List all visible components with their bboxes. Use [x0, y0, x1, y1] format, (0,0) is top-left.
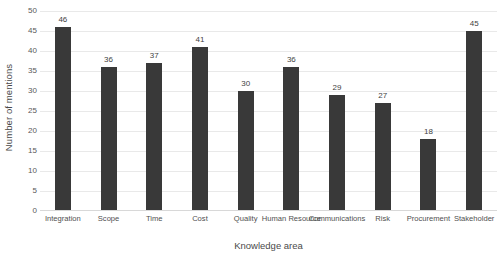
y-axis-tick-labels: 05101520253035404550: [18, 0, 37, 215]
bar-chart: Number of mentions 05101520253035404550 …: [0, 0, 499, 260]
y-axis-tick-label: 45: [18, 27, 37, 35]
bar[interactable]: [101, 67, 117, 211]
bar-slot: 41: [178, 11, 221, 211]
x-axis-line: [40, 210, 497, 211]
y-axis-tick-label: 25: [18, 107, 37, 115]
y-axis-tick-label: 50: [18, 7, 37, 15]
y-axis-tick-label: 35: [18, 67, 37, 75]
bar-value-label: 36: [87, 56, 130, 64]
bar-value-label: 37: [133, 52, 176, 60]
bar-value-label: 41: [178, 36, 221, 44]
bar-slot: 46: [41, 11, 84, 211]
bar[interactable]: [238, 91, 254, 211]
bar[interactable]: [55, 27, 71, 211]
y-axis-title: Number of mentions: [0, 0, 18, 215]
bar-slot: 18: [407, 11, 450, 211]
bar-value-label: 27: [361, 92, 404, 100]
bar[interactable]: [283, 67, 299, 211]
bar-value-label: 18: [407, 128, 450, 136]
bar-value-label: 30: [224, 80, 267, 88]
y-axis-tick-label: 15: [18, 147, 37, 155]
bar-slot: 45: [453, 11, 496, 211]
bar-slot: 27: [361, 11, 404, 211]
y-axis-tick-label: 10: [18, 167, 37, 175]
bar-slot: 36: [87, 11, 130, 211]
bar-slot: 30: [224, 11, 267, 211]
bar[interactable]: [146, 63, 162, 211]
bar-slot: 36: [270, 11, 313, 211]
bar-value-label: 45: [453, 20, 496, 28]
plot-area: 46363741303629271845: [40, 11, 497, 211]
y-axis-tick-label: 20: [18, 127, 37, 135]
bar[interactable]: [420, 139, 436, 211]
bar[interactable]: [192, 47, 208, 211]
bar-slot: 29: [315, 11, 358, 211]
bar-value-label: 36: [270, 56, 313, 64]
y-axis-tick-label: 30: [18, 87, 37, 95]
y-axis-title-label: Number of mentions: [4, 64, 15, 151]
bar-value-label: 29: [315, 84, 358, 92]
x-axis-title: Knowledge area: [40, 240, 497, 251]
y-axis-tick-label: 40: [18, 47, 37, 55]
y-axis-tick-label: 5: [18, 187, 37, 195]
x-axis-tick-labels: IntegrationScopeTimeCostQualityHuman Res…: [40, 214, 497, 242]
bar-slot: 37: [133, 11, 176, 211]
bar[interactable]: [466, 31, 482, 211]
bar-value-label: 46: [41, 16, 84, 24]
bar[interactable]: [375, 103, 391, 211]
bar[interactable]: [329, 95, 345, 211]
x-axis-tick-label: Stakeholder: [444, 214, 499, 224]
